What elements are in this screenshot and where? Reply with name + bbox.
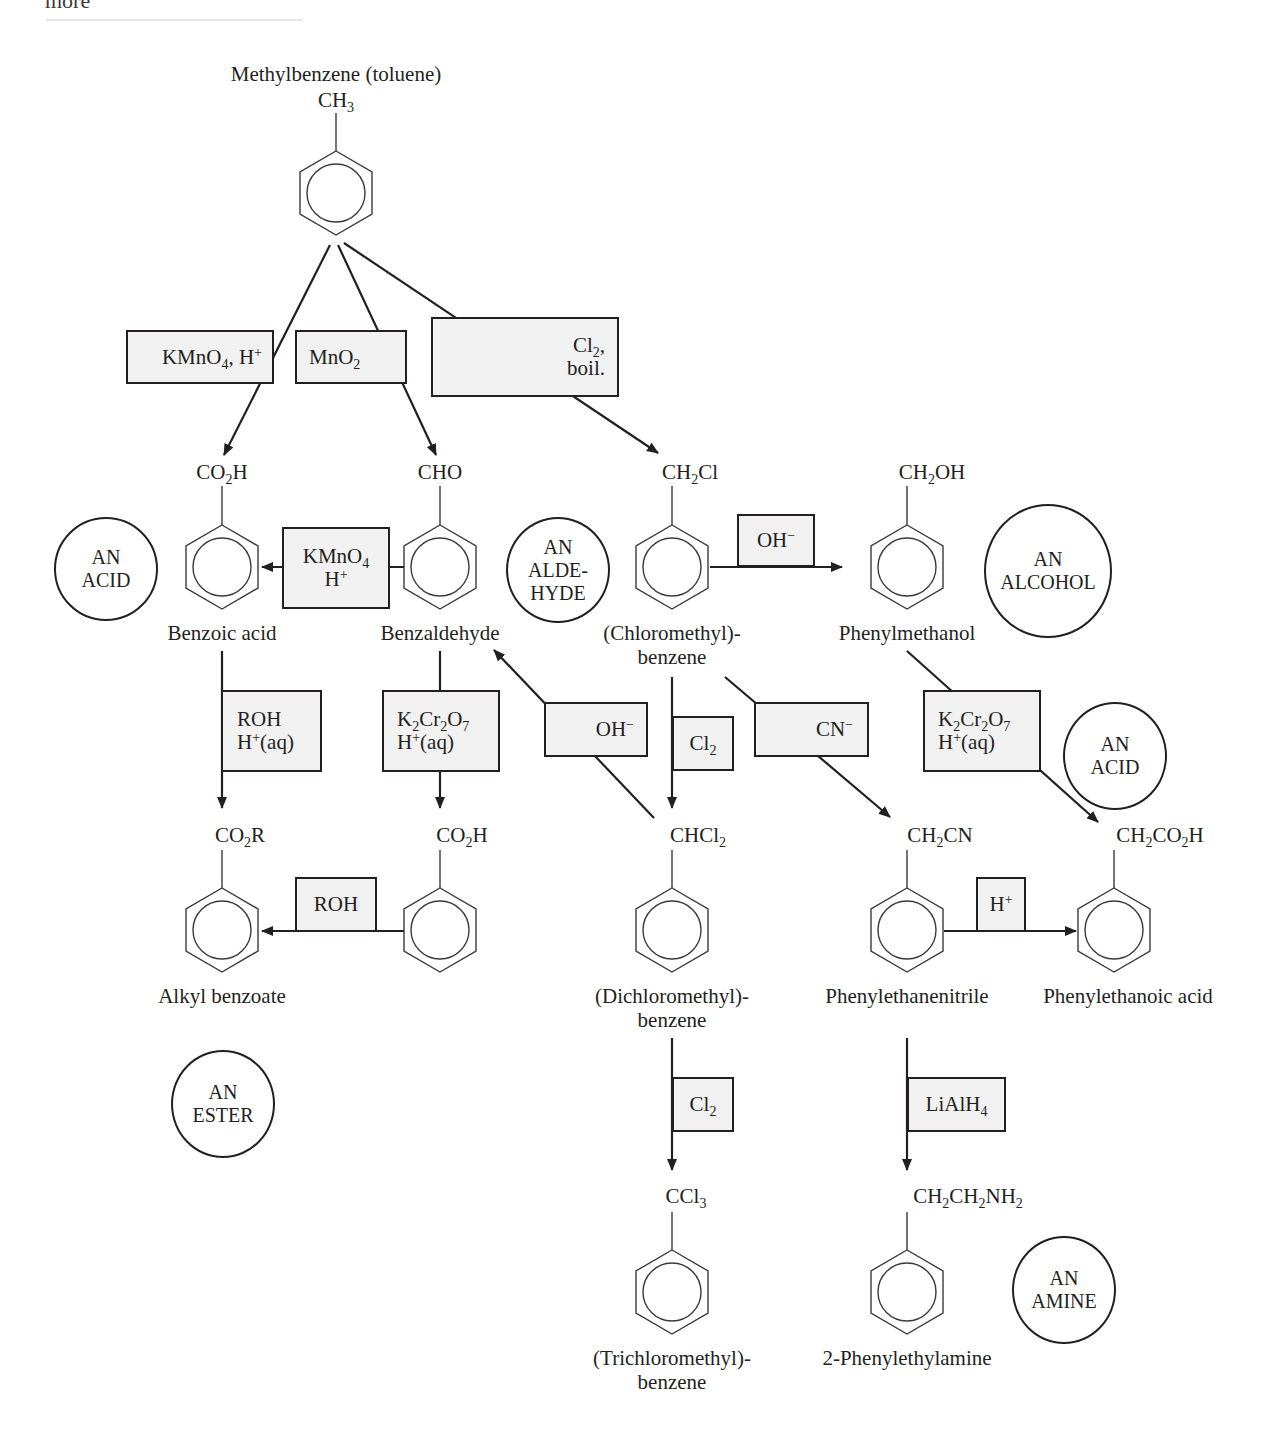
- reagent-text-line2: H+(aq): [237, 731, 294, 754]
- reagent-text-line2: H+(aq): [938, 731, 995, 754]
- class-text: AN: [544, 536, 573, 559]
- benzene-ring-phenylethanoic-acid: [1078, 850, 1150, 972]
- name-dichloromethylbenzene-line1: (Dichloromethyl)-: [595, 984, 749, 1008]
- name-phenylethanenitrile: Phenylethanenitrile: [825, 984, 988, 1008]
- name-dichloromethylbenzene-line2: benzene: [638, 1008, 707, 1032]
- reagent-text: LiAlH4: [926, 1093, 988, 1116]
- class-circle-amine: AN AMINE: [1012, 1236, 1116, 1344]
- name-chloromethylbenzene-line2: benzene: [638, 645, 707, 669]
- reagent-box-mno2: MnO2: [295, 330, 407, 384]
- benzene-ring-phenylmethanol: [871, 486, 943, 609]
- reagent-text-line2: boil.: [567, 357, 605, 380]
- reagent-text: H+: [989, 893, 1012, 916]
- start-compound-group: CH3: [318, 88, 354, 112]
- reagent-box-k2cr2o7-a: K2Cr2O7 H+(aq): [382, 690, 500, 772]
- name-phenylethanoic-acid: Phenylethanoic acid: [1043, 984, 1213, 1008]
- reagent-text: KMnO4, H+: [162, 346, 262, 369]
- group-benzoic-acid: CO2H: [196, 460, 247, 484]
- name-benzoic-acid: Benzoic acid: [167, 621, 276, 645]
- reagent-text: Cl2: [690, 1093, 717, 1116]
- benzene-ring-phenylethylamine: [871, 1212, 943, 1334]
- benzene-ring-dichloromethylbenzene: [636, 850, 708, 972]
- class-circle-ester: AN ESTER: [171, 1050, 275, 1158]
- reagent-text: OH−: [596, 718, 634, 741]
- reagent-text-line2: H+(aq): [397, 731, 454, 754]
- class-text: AN: [1034, 548, 1063, 571]
- class-text: AN: [1101, 733, 1130, 756]
- class-text: ESTER: [192, 1104, 253, 1127]
- name-phenylmethanol: Phenylmethanol: [839, 621, 975, 645]
- name-trichloromethylbenzene-line2: benzene: [638, 1370, 707, 1394]
- name-phenylethylamine: 2-Phenylethylamine: [822, 1346, 991, 1370]
- class-text: ALCOHOL: [1000, 571, 1096, 594]
- name-alkyl-benzoate: Alkyl benzoate: [158, 984, 286, 1008]
- reagent-text: ROH: [314, 893, 358, 916]
- reagent-text-line1: K2Cr2O7: [938, 708, 1010, 731]
- reagent-box-kmno4-h: KMnO4, H+: [126, 330, 274, 384]
- benzene-ring-toluene: [300, 113, 372, 235]
- reagent-box-oh-1: OH−: [737, 514, 815, 567]
- reagent-box-oh-2: OH−: [544, 702, 648, 757]
- reagent-text: CN−: [816, 718, 853, 741]
- class-text: AN: [92, 546, 121, 569]
- group-phenylethanoic-acid: CH2CO2H: [1116, 823, 1204, 847]
- reagent-text-line1: K2Cr2O7: [397, 708, 469, 731]
- benzene-ring-benzaldehyde: [404, 486, 476, 609]
- class-text: ACID: [82, 569, 131, 592]
- reagent-text-line1: Cl2,: [573, 334, 605, 357]
- reagent-text: MnO2: [309, 346, 360, 369]
- class-text: ALDE-: [528, 559, 588, 582]
- reagent-text: Cl2: [690, 732, 717, 755]
- start-compound-name: Methylbenzene (toluene): [231, 62, 442, 86]
- reagent-box-k2cr2o7-b: K2Cr2O7 H+(aq): [923, 690, 1041, 772]
- group-benzaldehyde: CHO: [418, 460, 462, 484]
- group-phenylethanenitrile: CH2CN: [907, 823, 972, 847]
- benzene-ring-chloromethylbenzene: [636, 486, 708, 609]
- reagent-text-line1: ROH: [237, 708, 281, 731]
- reagent-box-cl2-a: Cl2: [672, 716, 734, 771]
- group-chloromethylbenzene: CH2Cl: [662, 460, 718, 484]
- group-phenylmethanol: CH2OH: [899, 460, 966, 484]
- reagent-text: OH−: [757, 529, 795, 552]
- class-text: AN: [1050, 1267, 1079, 1290]
- benzene-ring-trichloromethylbenzene: [636, 1212, 708, 1334]
- name-benzaldehyde: Benzaldehyde: [381, 621, 500, 645]
- reagent-box-lialh4: LiAlH4: [907, 1077, 1006, 1132]
- reagent-text-line1: KMnO4: [303, 545, 370, 568]
- class-text: AMINE: [1031, 1290, 1097, 1313]
- group-dichloromethylbenzene: CHCl2: [670, 823, 726, 847]
- benzene-ring-phenylethanenitrile: [871, 850, 943, 972]
- group-phenylethylamine: CH2CH2NH2: [913, 1184, 1023, 1208]
- class-circle-alcohol: AN ALCOHOL: [984, 504, 1112, 638]
- reagent-box-cl2-b: Cl2: [672, 1077, 734, 1132]
- name-trichloromethylbenzene-line1: (Trichloromethyl)-: [593, 1346, 751, 1370]
- class-text: ACID: [1091, 756, 1140, 779]
- reagent-box-kmno4-h-mid: KMnO4 H+: [282, 527, 390, 609]
- reagent-box-cl2-boil: Cl2, boil.: [431, 317, 619, 397]
- group-trichloromethylbenzene: CCl3: [666, 1184, 707, 1208]
- class-text: AN: [209, 1081, 238, 1104]
- group-alkyl-benzoate: CO2R: [215, 823, 265, 847]
- name-chloromethylbenzene-line1: (Chloromethyl)-: [603, 621, 741, 645]
- reagent-box-roh: ROH: [295, 877, 377, 932]
- benzene-ring-benzoic-acid: [186, 486, 258, 609]
- reagent-text-line2: H+: [324, 568, 347, 591]
- benzene-ring-benzoic-acid-2: [404, 850, 476, 972]
- class-circle-acid-1: AN ACID: [54, 517, 158, 621]
- reagent-box-roh-h: ROH H+(aq): [221, 690, 322, 772]
- class-circle-aldehyde: AN ALDE- HYDE: [506, 517, 610, 623]
- benzene-ring-alkyl-benzoate: [186, 850, 258, 972]
- reagent-box-h-plus: H+: [976, 877, 1026, 932]
- reagent-box-cn: CN−: [754, 702, 869, 757]
- class-circle-acid-2: AN ACID: [1063, 702, 1167, 810]
- class-text: HYDE: [530, 582, 586, 605]
- group-benzoic-acid-2: CO2H: [436, 823, 487, 847]
